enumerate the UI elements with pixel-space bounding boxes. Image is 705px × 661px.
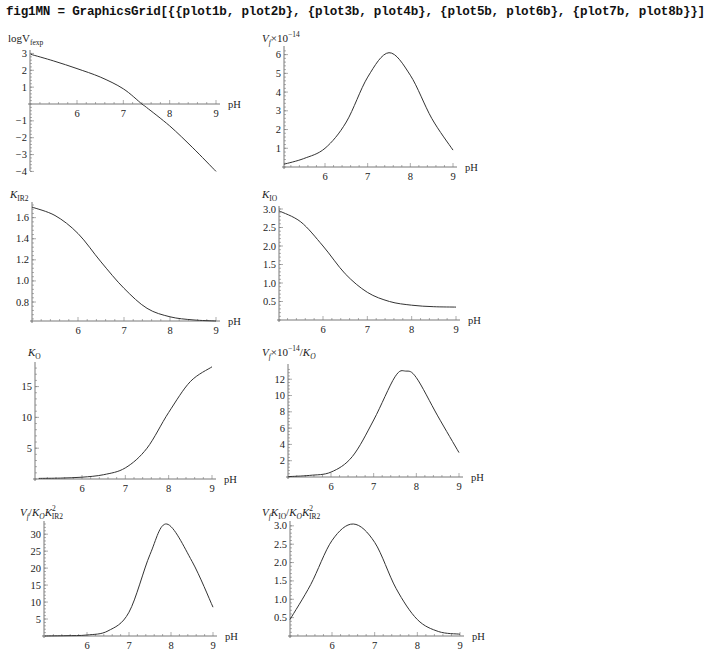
y-tick-label: 5 [276,68,281,79]
y-tick-label: −1 [16,115,27,126]
y-tick-label: 1.5 [263,259,276,270]
y-tick-label: 10 [275,390,286,401]
x-tick-label: 6 [79,483,84,494]
x-tick-label: 9 [456,481,461,492]
data-curve [32,207,216,321]
x-tick-label: 7 [372,640,377,651]
x-tick-label: 9 [450,171,455,182]
plot-panel-plot7b: 6789pH51015202530Vf/KOK2IR2 [20,504,238,651]
y-tick-label: 5 [27,443,32,454]
plot-panel-plot1b: 6789pH321−1−2−3−4logVfexp [8,32,241,177]
x-axis-label: pH [228,316,241,327]
x-axis-label: pH [472,631,485,642]
y-tick-label: 1 [276,143,281,154]
y-tick-label: 2 [22,65,27,76]
y-tick-label: 2.5 [274,539,287,550]
y-tick-label: 2.5 [263,222,276,233]
x-tick-label: 8 [166,483,171,494]
y-axis-label: KO [27,346,41,361]
y-tick-label: 1.0 [263,278,276,289]
x-axis-label: pH [228,99,241,110]
x-tick-label: 8 [168,640,173,651]
plot-panel-plot6b: 6789pH24681012Vf×10−14/KO [262,344,484,492]
y-tick-label: 2 [276,124,281,135]
y-axis-label: KIR2 [9,188,29,203]
y-axis-label: VfKIO/KOK2IR2 [262,504,321,521]
x-tick-label: 6 [320,324,325,335]
x-tick-label: 6 [329,640,334,651]
data-curve [288,371,459,477]
y-tick-label: 0.5 [263,296,276,307]
y-tick-label: 1.4 [16,233,30,244]
x-axis-label: pH [225,631,238,642]
y-tick-label: 3 [276,105,281,116]
x-tick-label: 6 [74,108,79,119]
y-axis-label: logVfexp [8,32,44,47]
y-axis-label: Vf×10−14 [262,30,300,47]
plot-panel-plot3b: 6789pH0.81.01.21.41.6KIR2 [9,188,241,336]
plot-panel-plot4b: 6789pH0.51.01.52.02.53.0KIO [261,188,481,335]
y-tick-label: 3 [22,48,27,59]
y-tick-label: 10 [31,597,42,608]
y-tick-label: 6 [276,49,281,60]
y-tick-label: 1.2 [16,254,29,265]
x-tick-label: 7 [371,481,376,492]
data-curve [284,53,453,165]
x-tick-label: 9 [457,640,462,651]
y-tick-label: 4 [276,87,282,98]
y-tick-label: 10 [22,412,33,423]
x-axis-label: pH [224,474,237,485]
x-tick-label: 7 [121,108,126,119]
x-tick-label: 7 [365,171,370,182]
data-curve [39,367,212,479]
y-tick-label: 15 [22,381,33,392]
y-tick-label: 0.8 [16,297,29,308]
y-tick-label: 1.5 [274,575,287,586]
x-axis-label: pH [468,315,481,326]
y-tick-label: 15 [31,580,42,591]
y-tick-label: 2.0 [274,557,287,568]
data-curve [290,524,460,634]
x-tick-label: 9 [210,640,215,651]
y-tick-label: −3 [16,149,27,160]
x-tick-label: 6 [84,640,89,651]
data-curve [279,211,456,307]
plot-panel-plot5b: 6789pH51015KO [22,346,238,494]
y-tick-label: 30 [31,529,42,540]
y-tick-label: 1.0 [274,594,287,605]
x-tick-label: 8 [167,325,172,336]
y-tick-label: 2 [280,455,285,466]
x-tick-label: 8 [414,481,419,492]
y-tick-label: 5 [36,614,41,625]
y-tick-label: 0.5 [274,612,287,623]
x-tick-label: 8 [415,640,420,651]
x-tick-label: 9 [213,325,218,336]
x-tick-label: 7 [121,325,126,336]
x-tick-label: 8 [408,171,413,182]
y-tick-label: 3.0 [263,204,276,215]
x-tick-label: 6 [322,171,327,182]
y-axis-label: Vf×10−14/KO [262,344,316,361]
y-tick-label: 12 [275,374,286,385]
y-axis-label: KIO [261,188,278,203]
y-tick-label: 1 [22,82,27,93]
plot-panel-plot8b: 6789pH0.51.01.52.02.53.0VfKIO/KOK2IR2 [262,504,485,651]
y-tick-label: −2 [16,132,27,143]
x-axis-label: pH [471,472,484,483]
y-tick-label: 6 [280,423,285,434]
y-tick-label: 8 [280,406,285,417]
x-tick-label: 8 [409,324,414,335]
y-tick-label: 1.6 [16,212,29,223]
x-tick-label: 7 [126,640,131,651]
y-tick-label: 20 [31,563,42,574]
y-axis-label: Vf/KOK2IR2 [20,504,63,521]
y-tick-label: 4 [280,439,286,450]
x-tick-label: 7 [365,324,370,335]
x-tick-label: 9 [453,324,458,335]
y-tick-label: 1.0 [16,275,29,286]
y-tick-label: −4 [16,166,28,177]
x-tick-label: 6 [75,325,80,336]
x-tick-label: 6 [328,481,333,492]
y-tick-label: 3.0 [274,520,287,531]
